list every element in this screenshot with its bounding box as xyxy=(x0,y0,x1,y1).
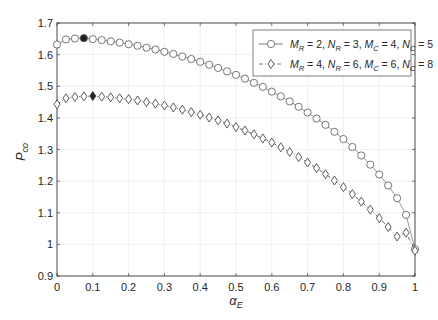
y-tick-label: 1.6 xyxy=(38,49,53,61)
x-tick-label: 0 xyxy=(54,281,60,293)
y-tick-label: 1.5 xyxy=(38,80,53,92)
legend: MR = 2, NR = 3, MC = 4, NC = 5MR = 4, NR… xyxy=(253,30,433,76)
y-tick-label: 0.9 xyxy=(38,270,53,282)
x-tick-label: 0.2 xyxy=(121,281,136,293)
chart: 00.10.20.30.40.50.60.70.80.910.911.11.21… xyxy=(0,0,438,320)
y-tick-label: 1.7 xyxy=(38,17,53,29)
x-tick-label: 0.8 xyxy=(336,281,351,293)
x-tick-label: 0.4 xyxy=(193,281,208,293)
y-tick-label: 1.3 xyxy=(38,144,53,156)
y-axis-label: Pco xyxy=(13,143,30,161)
x-tick-label: 1 xyxy=(412,281,418,293)
x-tick-label: 0.9 xyxy=(372,281,387,293)
x-axis-label: αE xyxy=(229,293,243,310)
y-tick-label: 1.4 xyxy=(38,112,53,124)
x-tick-label: 0.3 xyxy=(157,281,172,293)
x-tick-label: 0.6 xyxy=(264,281,279,293)
y-tick-label: 1.2 xyxy=(38,175,53,187)
y-tick-label: 1 xyxy=(47,238,53,250)
y-tick-label: 1.1 xyxy=(38,207,53,219)
x-tick-label: 0.7 xyxy=(300,281,315,293)
x-tick-label: 0.1 xyxy=(85,281,100,293)
x-tick-label: 0.5 xyxy=(228,281,243,293)
